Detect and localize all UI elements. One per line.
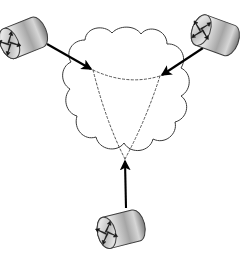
access-link-bottom[interactable] <box>125 161 126 208</box>
router-bottom[interactable] <box>93 208 148 251</box>
router-top-left[interactable] <box>0 14 52 62</box>
diagram-svg <box>0 0 249 278</box>
cloud-outline <box>63 27 190 150</box>
network-diagram: Network topology with three routers atta… <box>0 0 249 278</box>
cloud-node-bottom[interactable] <box>121 155 129 163</box>
router-top-right[interactable] <box>186 12 243 59</box>
cloud-node-right[interactable] <box>156 72 164 80</box>
cloud-node-left[interactable] <box>89 66 97 74</box>
network-cloud[interactable] <box>63 27 190 150</box>
